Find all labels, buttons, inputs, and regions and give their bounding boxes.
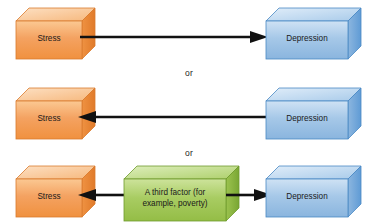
or-separator-1: or (0, 68, 378, 78)
row-stress-causes-depression: Stress (0, 8, 378, 64)
node-depression-2[interactable]: Depression (266, 88, 362, 140)
box-shape-blue (266, 88, 362, 140)
row-depression-causes-stress: Stress Depression (0, 88, 378, 144)
box-shape-blue (266, 166, 362, 218)
row-third-factor: Stress (0, 166, 378, 222)
node-depression-3[interactable]: Depression (266, 166, 362, 218)
arrow-stress-to-depression (80, 31, 268, 43)
arrow-depression-to-stress (78, 111, 268, 123)
node-third-factor[interactable]: A third factor (for example, poverty) (124, 166, 240, 222)
or-separator-2: or (0, 148, 378, 158)
causal-relationship-diagram: Stress (0, 0, 378, 222)
arrow-third-factor-to-stress (78, 189, 126, 201)
node-depression-1[interactable]: Depression (266, 8, 362, 60)
box-shape-green (124, 166, 240, 222)
box-shape-blue (266, 8, 362, 60)
